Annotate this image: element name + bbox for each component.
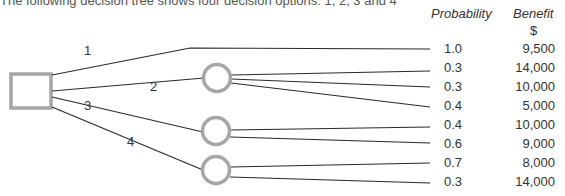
decision-node-square: [11, 74, 51, 108]
outcome-line: [231, 83, 430, 107]
branch-label-3: 3: [84, 98, 91, 113]
probability-value: 0.4: [430, 98, 476, 113]
probability-value: 0.3: [430, 174, 476, 189]
outcome-line: [231, 71, 430, 75]
chance-node-circle: [204, 65, 231, 92]
probability-value: 0.3: [430, 60, 476, 75]
benefit-value: 14,000: [505, 60, 555, 75]
benefit-unit: $: [530, 23, 537, 38]
branch-2-line: [52, 78, 204, 91]
outcome-line: [230, 177, 430, 183]
probability-value: 1.0: [430, 41, 476, 56]
benefit-value: 10,000: [505, 79, 555, 94]
benefit-value: 10,000: [505, 117, 555, 132]
probability-value: 0.7: [430, 155, 476, 170]
benefit-value: 9,500: [505, 41, 555, 56]
outcome-line: [230, 127, 430, 130]
benefit-value: 8,000: [505, 155, 555, 170]
probability-value: 0.6: [430, 136, 476, 151]
outcome-line: [230, 163, 430, 167]
benefit-header: Benefit: [513, 6, 553, 21]
outcome-line: [230, 137, 430, 143]
probability-value: 0.3: [430, 79, 476, 94]
benefit-value: 9,000: [505, 136, 555, 151]
probability-value: 0.4: [430, 117, 476, 132]
branch-label-1: 1: [84, 43, 91, 58]
branch-label-2: 2: [150, 79, 157, 94]
probability-header: Probability: [431, 6, 492, 21]
branch-label-4: 4: [127, 134, 134, 149]
chance-node-circle: [203, 118, 230, 145]
chance-node-circle: [203, 157, 230, 184]
outcome-line: [231, 79, 430, 87]
branch-3-line: [52, 97, 203, 132]
benefit-value: 5,000: [505, 98, 555, 113]
benefit-value: 14,000: [505, 174, 555, 189]
branch-1-line: [52, 48, 430, 75]
